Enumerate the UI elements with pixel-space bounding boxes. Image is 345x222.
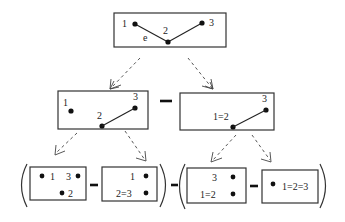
svg-text:3: 3	[212, 172, 217, 183]
svg-text:1: 1	[50, 171, 55, 182]
node-1	[132, 21, 137, 26]
l2-left-label-2: 2	[97, 110, 102, 121]
svg-text:2: 2	[68, 188, 73, 199]
l2-left-label-1: 1	[63, 97, 68, 108]
arrow-l2left-contract	[125, 131, 146, 161]
close-paren-right	[320, 164, 326, 208]
arrow-l2right-contract	[252, 135, 271, 162]
l2-right-label-12: 1=2	[213, 111, 229, 122]
level2-right-box: 1=2 3	[180, 93, 274, 130]
arrow-l2left-delete	[55, 133, 77, 155]
close-paren-left	[160, 164, 166, 207]
arrow-delete	[110, 58, 140, 89]
node-2	[165, 39, 170, 44]
level2-left-box: 1 2 3	[58, 91, 148, 129]
top-graph-box: 1 2 3 e	[114, 13, 226, 47]
node-2-label: 2	[163, 25, 168, 36]
level3-box-2: 1 2=3	[102, 167, 157, 201]
l2-right-label-3: 3	[262, 93, 267, 104]
level3-box-3: 3 1=2	[187, 168, 246, 203]
level3-box-1: 1 3 2	[30, 167, 86, 200]
svg-text:2=3: 2=3	[116, 188, 132, 199]
svg-text:1: 1	[130, 171, 135, 182]
node-3	[199, 20, 204, 25]
node-3-label: 3	[209, 17, 214, 28]
svg-text:3: 3	[66, 171, 71, 182]
deletion-contraction-diagram: 1 2 3 e 1 2 3 1=2 3	[0, 0, 345, 222]
arrow-l2right-delete	[211, 135, 236, 162]
open-paren-right	[180, 164, 186, 209]
open-paren-left	[22, 164, 28, 207]
level3-box-4: 1=2=3	[262, 170, 318, 203]
svg-text:1=2: 1=2	[200, 189, 216, 200]
svg-text:1=2=3: 1=2=3	[282, 181, 308, 192]
edge-e-label: e	[143, 32, 148, 43]
node-1-label: 1	[122, 18, 127, 29]
l2-left-label-3: 3	[133, 91, 138, 102]
arrow-contract	[188, 58, 213, 89]
